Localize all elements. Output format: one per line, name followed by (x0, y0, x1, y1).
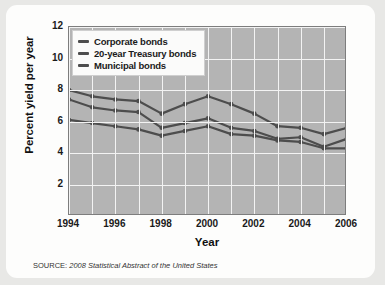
y-tick-label: 6 (36, 116, 63, 126)
legend-item: Municipal bonds (78, 59, 196, 71)
x-tick-label: 1994 (45, 219, 91, 229)
y-tick-label: 12 (36, 21, 63, 31)
chart-card: Percent yield per year 24681012 19941996… (6, 5, 375, 278)
legend-swatch-icon (78, 52, 89, 55)
data-point-marker (345, 146, 346, 151)
gridline-horizontal (69, 27, 345, 28)
source-prefix: SOURCE: (33, 261, 67, 270)
legend-label: Corporate bonds (94, 36, 168, 47)
x-tick-label: 1996 (91, 219, 137, 229)
x-tick-label: 2004 (277, 219, 323, 229)
chart-legend: Corporate bonds20-year Treasury bondsMun… (72, 30, 205, 76)
gridline-horizontal (69, 90, 345, 91)
y-tick-label: 8 (36, 84, 63, 94)
x-tick-label: 2002 (230, 219, 276, 229)
gridline-horizontal (69, 185, 345, 186)
x-axis-title: Year (68, 236, 346, 248)
figure-container: Percent yield per year 24681012 19941996… (0, 0, 385, 285)
legend-swatch-icon (78, 64, 89, 67)
legend-item: Corporate bonds (78, 35, 196, 47)
source-citation: 2008 Statistical Abstract of the United … (69, 261, 217, 270)
legend-swatch-icon (78, 40, 89, 43)
y-tick-label: 4 (36, 147, 63, 157)
y-axis-title: Percent yield per year (23, 29, 35, 161)
source-note: SOURCE: 2008 Statistical Abstract of the… (33, 261, 217, 270)
y-tick-label: 2 (36, 179, 63, 189)
y-tick-label: 10 (36, 53, 63, 63)
legend-label: Municipal bonds (94, 60, 166, 71)
legend-label: 20-year Treasury bonds (94, 48, 196, 59)
x-tick-label: 2000 (184, 219, 230, 229)
gridline-horizontal (69, 122, 345, 123)
gridline-horizontal (69, 153, 345, 154)
x-tick-label: 2006 (323, 219, 369, 229)
legend-item: 20-year Treasury bonds (78, 47, 196, 59)
x-tick-label: 1998 (138, 219, 184, 229)
